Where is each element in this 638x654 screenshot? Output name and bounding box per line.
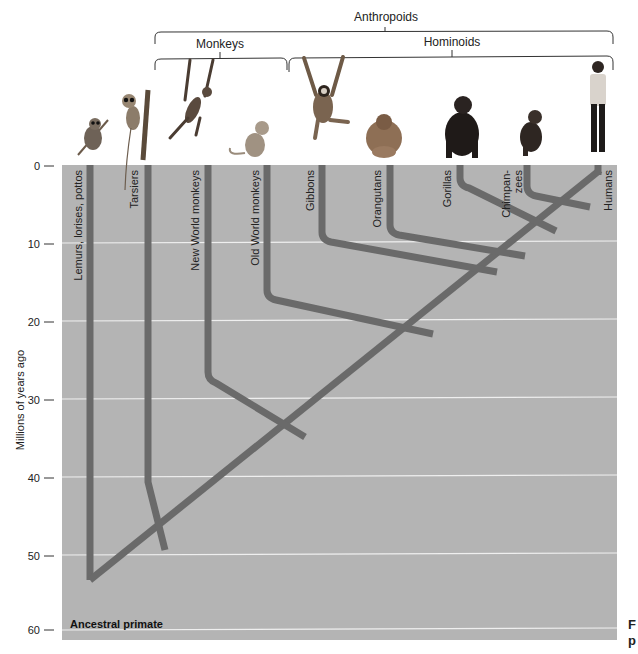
y-axis-ticks [44,166,54,630]
label-chimpanzees-line2: zees [512,170,524,194]
label-humans: Humans [602,170,614,211]
group-label-hominoids: Hominoids [424,35,481,49]
tick-60: 60 [28,624,40,636]
label-gibbons: Gibbons [304,170,316,211]
label-new-world-monkeys: New World monkeys [189,170,201,271]
label-orangutans: Orangutans [371,170,383,228]
spider-monkey-icon [170,60,213,138]
tick-20: 20 [28,316,40,328]
tick-40: 40 [28,472,40,484]
bracket-monkeys [155,52,287,70]
chimpanzee-icon [520,110,542,156]
y-axis-label: Millions of years ago [14,350,26,450]
edge-text-1: F [628,617,636,632]
root-label: Ancestral primate [70,618,163,630]
gorilla-icon [445,96,479,158]
tick-30: 30 [28,394,40,406]
group-label-monkeys: Monkeys [196,37,244,51]
y-axis-tick-labels: 0 10 20 30 40 50 60 [28,160,40,636]
label-tarsiers: Tarsiers [128,170,140,209]
tick-0: 0 [34,160,40,172]
orangutan-icon [366,114,402,158]
human-icon [590,61,606,152]
label-old-world-monkeys: Old World monkeys [249,170,261,266]
label-gorillas: Gorillas [441,170,453,208]
gibbon-icon [304,57,348,138]
loris-icon [78,118,108,155]
label-lemurs: Lemurs, lorises, pottos [72,170,84,281]
tick-10: 10 [28,238,40,250]
old-world-monkey-icon [230,121,269,157]
group-label-anthropoids: Anthropoids [354,10,418,24]
tick-50: 50 [28,550,40,562]
primate-phylogeny-diagram: 0 10 20 30 40 50 60 Millions of years ag… [0,0,638,654]
edge-text-2: p [628,633,636,648]
label-chimpanzees-line1: Chimpan- [500,170,512,218]
